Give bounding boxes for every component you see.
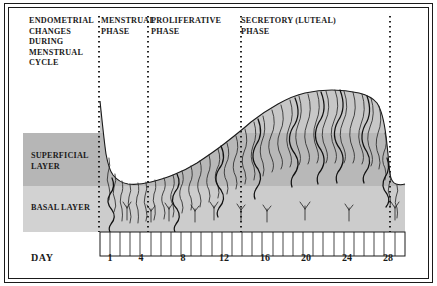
day-tick-24: 24 bbox=[342, 252, 352, 263]
day-tick-12: 12 bbox=[219, 252, 229, 263]
day-tick-4: 4 bbox=[139, 252, 144, 263]
day-tick-28: 28 bbox=[383, 252, 393, 263]
figure-title: ENDOMETRIAL CHANGES DURING MENSTRUAL CYC… bbox=[29, 16, 94, 69]
phase-label-menstrual: MENSTRUAL PHASE bbox=[101, 16, 155, 37]
phase-label-proliferative: PROLIFERATIVE PHASE bbox=[151, 16, 221, 37]
plot-area: ENDOMETRIAL CHANGES DURING MENSTRUAL CYC… bbox=[9, 8, 428, 278]
day-tick-1: 1 bbox=[108, 252, 113, 263]
day-ruler bbox=[100, 232, 405, 256]
endometrial-cycle-figure: ENDOMETRIAL CHANGES DURING MENSTRUAL CYC… bbox=[0, 0, 437, 286]
layer-label-superficial: SUPERFICIAL LAYER bbox=[31, 151, 89, 172]
phase-label-secretory: SECRETORY (LUTEAL) PHASE bbox=[241, 16, 336, 37]
day-tick-8: 8 bbox=[181, 252, 186, 263]
day-tick-16: 16 bbox=[260, 252, 270, 263]
day-tick-20: 20 bbox=[301, 252, 311, 263]
layer-label-basal: BASAL LAYER bbox=[31, 203, 90, 214]
day-axis-label: DAY bbox=[31, 253, 54, 264]
